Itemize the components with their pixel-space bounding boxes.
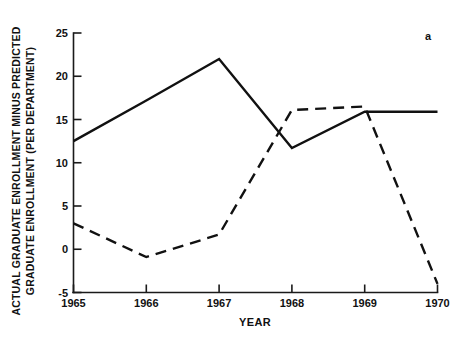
x-tick-label: 1965 [61, 297, 85, 309]
y-tick-label: 15 [40, 114, 68, 126]
y-tick-label: 25 [40, 27, 68, 39]
x-tick-label: 1967 [207, 297, 231, 309]
y-axis-ticks [74, 33, 82, 293]
y-tick-label: 0 [40, 243, 68, 255]
x-tick-label: 1969 [352, 297, 376, 309]
axes [73, 33, 438, 293]
series-solid-line [74, 59, 438, 148]
x-tick-label: 1970 [425, 297, 449, 309]
series-dashed-line [74, 107, 438, 284]
x-axis-label: YEAR [73, 316, 437, 328]
x-tick-label: 1966 [134, 297, 158, 309]
y-tick-label: 10 [40, 157, 68, 169]
chart-figure: ACTUAL GRADUATE ENROLLMENT MINUS PREDICT… [0, 0, 469, 342]
chart-plot-area [0, 0, 469, 342]
x-axis-ticks [74, 285, 438, 293]
y-tick-label: 5 [40, 200, 68, 212]
x-tick-label: 1968 [280, 297, 304, 309]
panel-label: a [425, 30, 431, 42]
y-tick-label: 20 [40, 70, 68, 82]
